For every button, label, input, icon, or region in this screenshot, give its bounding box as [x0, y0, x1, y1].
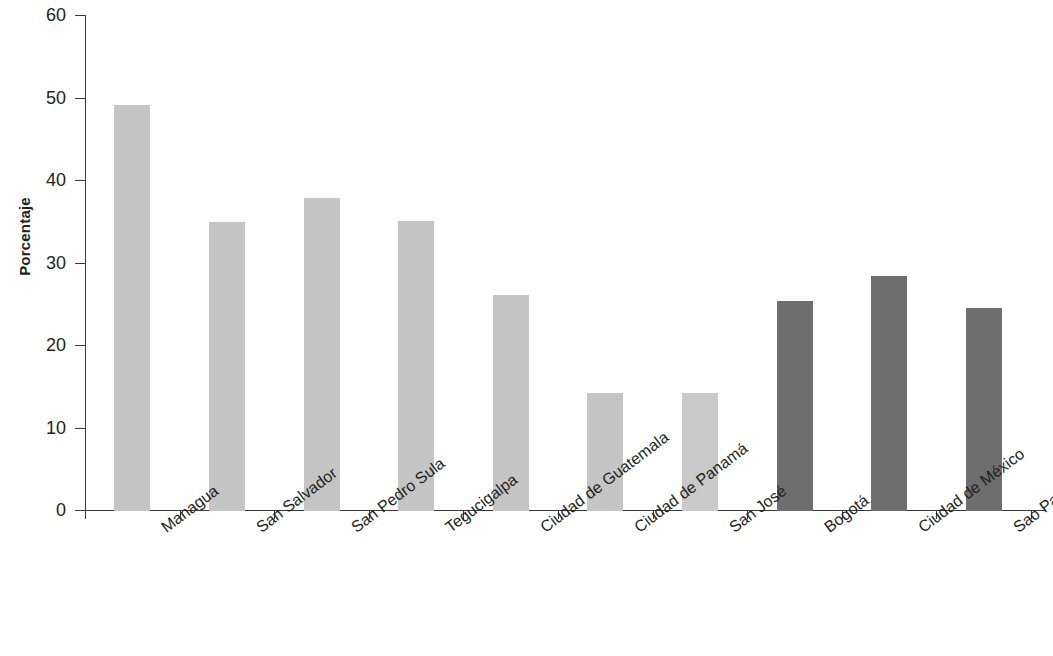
x-axis-label: Sao Paulo [1010, 522, 1021, 536]
x-axis-label: Ciudad de Guatemala [537, 522, 548, 536]
bar [209, 222, 245, 511]
x-axis-label: San Salvador [253, 522, 264, 536]
bar [871, 276, 907, 511]
x-axis-label: Managua [158, 522, 169, 536]
x-axis-label: San Pedro Sula [348, 522, 359, 536]
x-axis-label: Ciudad de México [915, 522, 926, 536]
x-axis-label: Ciudad de Panamá [631, 522, 642, 536]
bar-chart: Porcentaje 0102030405060 ManaguaSan Salv… [0, 0, 1053, 656]
bar [777, 301, 813, 511]
bar [304, 198, 340, 512]
x-axis-label: San José [726, 522, 737, 536]
x-tick [85, 510, 86, 519]
bar [114, 105, 150, 511]
x-axis-label: Bogotá [821, 522, 832, 536]
x-axis-label: Tegucigalpa [442, 522, 453, 536]
bars-area [0, 0, 1053, 511]
